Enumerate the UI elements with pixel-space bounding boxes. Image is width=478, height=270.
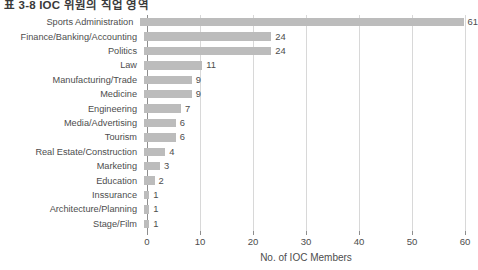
bar-chart: Sports Administration61Finance/Banking/A… <box>0 0 478 270</box>
bar-row: Law11 <box>0 58 478 72</box>
bar-row: Marketing3 <box>0 159 478 173</box>
category-label: Real Estate/Construction <box>0 147 142 157</box>
bar-value-label: 1 <box>153 204 158 214</box>
bar-track: 6 <box>142 130 478 144</box>
bar-row: Finance/Banking/Accounting24 <box>0 29 478 43</box>
bar-track: 6 <box>142 116 478 130</box>
bar <box>144 176 155 184</box>
x-tick-label: 40 <box>354 236 365 247</box>
bar-value-label: 3 <box>164 161 169 171</box>
bar-value-label: 11 <box>206 60 216 70</box>
bar-track: 61 <box>138 15 478 29</box>
bar <box>144 61 202 69</box>
bar-value-label: 7 <box>185 104 190 114</box>
category-label: Engineering <box>0 104 142 114</box>
category-label: Marketing <box>0 161 142 171</box>
bar <box>144 205 149 213</box>
bar-value-label: 1 <box>153 190 158 200</box>
category-label: Finance/Banking/Accounting <box>0 32 142 42</box>
bar-row: Inssurance1 <box>0 188 478 202</box>
category-label: Medicine <box>0 89 142 99</box>
bar-row: Education2 <box>0 173 478 187</box>
bar-track: 1 <box>142 188 478 202</box>
bar-row: Medicine9 <box>0 87 478 101</box>
category-label: Tourism <box>0 132 142 142</box>
bar-value-label: 24 <box>275 46 285 56</box>
bar-track: 24 <box>142 29 478 43</box>
x-tick-mark <box>147 231 148 235</box>
bar <box>144 90 192 98</box>
category-label: Sports Administration <box>0 17 138 27</box>
bar-row: Manufacturing/Trade9 <box>0 73 478 87</box>
category-label: Media/Advertising <box>0 118 142 128</box>
bar <box>144 220 149 228</box>
x-tick-mark <box>253 231 254 235</box>
x-tick-label: 20 <box>248 236 259 247</box>
category-label: Politics <box>0 46 142 56</box>
category-label: Manufacturing/Trade <box>0 75 142 85</box>
bar-track: 1 <box>142 217 478 231</box>
x-tick-label: 30 <box>301 236 312 247</box>
category-label: Inssurance <box>0 190 142 200</box>
bar-rows: Sports Administration61Finance/Banking/A… <box>0 15 478 231</box>
bar <box>144 104 181 112</box>
category-label: Architecture/Planning <box>0 204 142 214</box>
x-tick-mark <box>359 231 360 235</box>
bar-track: 2 <box>142 173 478 187</box>
bar-track: 1 <box>142 202 478 216</box>
x-tick-mark <box>200 231 201 235</box>
bar <box>144 32 271 40</box>
bar <box>144 76 192 84</box>
bar-track: 3 <box>142 159 478 173</box>
bar-value-label: 9 <box>196 75 201 85</box>
bar-row: Real Estate/Construction4 <box>0 145 478 159</box>
bar-value-label: 2 <box>159 176 164 186</box>
bar-row: Tourism6 <box>0 130 478 144</box>
bar-row: Stage/Film1 <box>0 217 478 231</box>
bar-value-label: 24 <box>275 32 285 42</box>
bar-value-label: 6 <box>180 118 185 128</box>
bar <box>144 148 165 156</box>
bar-value-label: 4 <box>169 147 174 157</box>
bar-value-label: 6 <box>180 132 185 142</box>
category-label: Stage/Film <box>0 219 142 229</box>
x-tick-label: 10 <box>195 236 206 247</box>
x-axis-title: No. of IOC Members <box>147 252 465 263</box>
bar-row: Media/Advertising6 <box>0 116 478 130</box>
bar-row: Politics24 <box>0 44 478 58</box>
bar-value-label: 1 <box>153 219 158 229</box>
bar-track: 24 <box>142 44 478 58</box>
bar-track: 9 <box>142 73 478 87</box>
bar-row: Architecture/Planning1 <box>0 202 478 216</box>
category-label: Education <box>0 176 142 186</box>
bar-track: 9 <box>142 87 478 101</box>
x-tick-label: 0 <box>144 236 149 247</box>
bar-row: Sports Administration61 <box>0 15 478 29</box>
bar <box>144 191 149 199</box>
bar <box>144 47 271 55</box>
x-tick-label: 60 <box>460 236 471 247</box>
bar <box>144 162 160 170</box>
x-axis-ticks: 0102030405060 <box>147 231 465 236</box>
x-tick-label: 50 <box>407 236 418 247</box>
bar-track: 4 <box>142 145 478 159</box>
bar-track: 11 <box>142 58 478 72</box>
category-label: Law <box>0 60 142 70</box>
bar <box>144 119 176 127</box>
x-tick-mark <box>465 231 466 235</box>
x-tick-mark <box>306 231 307 235</box>
bar-value-label: 9 <box>196 89 201 99</box>
bar-row: Engineering7 <box>0 101 478 115</box>
bar-track: 7 <box>142 101 478 115</box>
bar <box>144 133 176 141</box>
bar-value-label: 61 <box>468 17 478 27</box>
bar <box>140 18 463 26</box>
x-tick-mark <box>412 231 413 235</box>
